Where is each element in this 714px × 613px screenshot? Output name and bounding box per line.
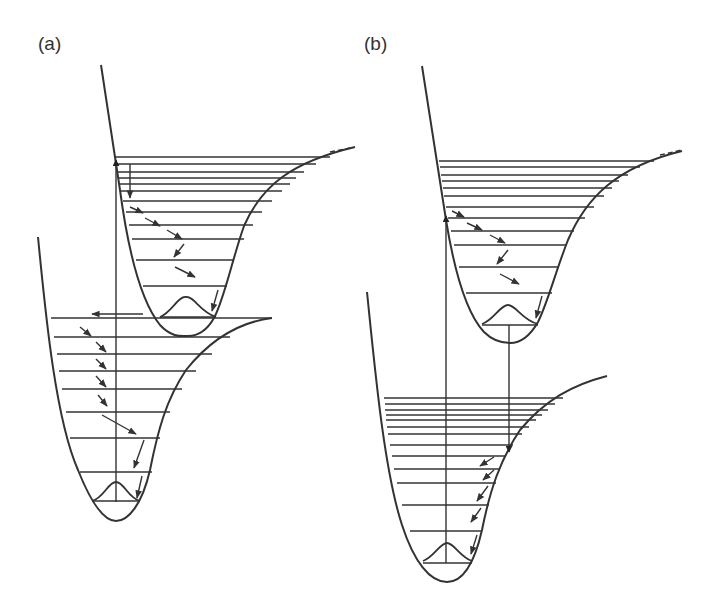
panel-b — [367, 66, 682, 582]
upper-ground-wavefunction-b — [482, 305, 538, 324]
upper-ground-wavefunction-a — [160, 297, 216, 317]
lower-potential-levels-a — [51, 318, 272, 501]
energy-diagram — [0, 0, 714, 613]
upper-potential-curve-b — [422, 66, 682, 343]
upper-potential-levels-a — [115, 157, 330, 286]
lower-ground-wavefunction-b — [423, 543, 472, 561]
lower-potential-curve-a — [38, 237, 272, 521]
upper-potential-levels-b — [439, 161, 654, 293]
panel-a — [38, 65, 355, 521]
upper-relaxation-arrows-a — [130, 164, 218, 311]
lower-potential-levels-b — [384, 398, 563, 531]
